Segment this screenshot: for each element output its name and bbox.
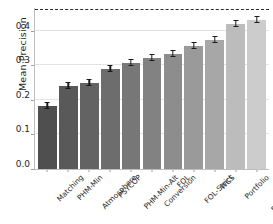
error-bar-cap — [170, 50, 175, 51]
error-bar-cap — [45, 108, 50, 109]
bar — [122, 63, 141, 169]
bar-slot — [59, 8, 78, 169]
y-tick-label: 0.1 — [6, 124, 30, 134]
bar — [38, 106, 57, 169]
bar — [164, 54, 183, 169]
x-tick-mark — [46, 170, 47, 172]
x-axis-labels: MatchingPHM-MinAtmospherePSYCOPPHM-Min-A… — [34, 172, 269, 224]
bar — [205, 40, 224, 169]
y-tick-mark — [31, 100, 34, 101]
bar — [226, 24, 245, 169]
x-label-slot: WCS — [205, 172, 224, 224]
bar-slot — [38, 8, 57, 169]
y-tick-mark — [31, 31, 34, 32]
x-tick-mark — [151, 170, 152, 172]
error-bar-cap — [45, 102, 50, 103]
error-bar-cap — [129, 65, 134, 66]
error-bar-cap — [254, 16, 259, 17]
x-label-slot: Portfolio-Max — [247, 172, 266, 224]
plot-area — [34, 8, 269, 170]
y-tick-label: 0.4 — [6, 21, 30, 31]
x-tick-mark — [214, 170, 215, 172]
error-bar-cap — [129, 59, 134, 60]
bar-slot — [247, 8, 266, 169]
x-tick-mark — [235, 170, 236, 172]
y-tick-label: 0.2 — [6, 90, 30, 100]
error-bar-cap — [108, 71, 113, 72]
bar — [247, 20, 266, 169]
bar-slot — [122, 8, 141, 169]
bar-slot — [226, 8, 245, 169]
y-tick-label: 0.3 — [6, 55, 30, 65]
bar — [184, 46, 203, 169]
bar-slot — [143, 8, 162, 169]
bar-slot — [101, 8, 120, 169]
x-label-slot: PSYCOP — [100, 172, 119, 224]
x-label-slot: Atmosphere — [79, 172, 98, 224]
x-tick-mark — [193, 170, 194, 172]
x-label-slot: Conversion — [142, 172, 161, 224]
error-bar-cap — [87, 79, 92, 80]
x-tick-mark — [88, 170, 89, 172]
x-label-slot: Matching — [37, 172, 56, 224]
error-bar-cap — [191, 42, 196, 43]
error-bar-cap — [254, 22, 259, 23]
error-bar-cap — [149, 60, 154, 61]
error-bar-cap — [108, 65, 113, 66]
x-tick-mark — [130, 170, 131, 172]
error-bar-cap — [212, 42, 217, 43]
error-bar-cap — [87, 85, 92, 86]
error-bar-cap — [66, 82, 71, 83]
bar — [101, 69, 120, 169]
error-bar-cap — [170, 56, 175, 57]
error-bar-cap — [66, 88, 71, 89]
error-bar-cap — [212, 36, 217, 37]
x-tick-mark — [109, 170, 110, 172]
bar-series — [35, 8, 269, 169]
y-tick-label: 0.0 — [6, 159, 30, 169]
bar-slot — [80, 8, 99, 169]
x-tick-mark — [172, 170, 173, 172]
x-label-slot: Portfolio — [226, 172, 245, 224]
y-tick-mark — [31, 134, 34, 135]
error-bar-cap — [149, 54, 154, 55]
error-bar-cap — [233, 26, 238, 27]
error-bar-cap — [233, 20, 238, 21]
bar — [80, 83, 99, 169]
bar-slot — [184, 8, 203, 169]
y-tick-mark — [31, 169, 34, 170]
x-tick-mark — [67, 170, 68, 172]
x-label-slot: FOL — [163, 172, 182, 224]
bar-slot — [205, 8, 224, 169]
x-tick-mark — [256, 170, 257, 172]
y-tick-mark — [31, 65, 34, 66]
bar-chart: Mean Precision 0.00.10.20.30.4 MatchingP… — [0, 0, 273, 224]
bar — [143, 58, 162, 169]
x-label-slot: FOL-Strict — [184, 172, 203, 224]
error-bar-cap — [191, 48, 196, 49]
x-label-slot: PHM-Min-Alt — [121, 172, 140, 224]
x-label-slot: PHM-Min — [58, 172, 77, 224]
bar — [59, 86, 78, 169]
bar-slot — [164, 8, 183, 169]
